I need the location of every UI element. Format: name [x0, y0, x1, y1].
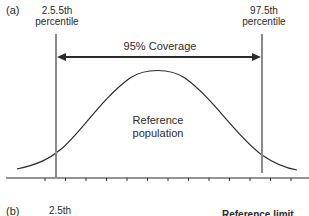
- curve-label-line1: Reference: [118, 114, 198, 127]
- lower-percentile-label: 2.5.5th percentile: [30, 5, 84, 27]
- arrowhead-left: [57, 53, 66, 61]
- upper-percentile-label: 97.5th percentile: [237, 5, 291, 27]
- upper-percentile-line2: percentile: [237, 16, 291, 27]
- reference-interval-diagram: [0, 0, 309, 216]
- arrowhead-right: [252, 53, 261, 61]
- panel-b-label: (b): [6, 206, 19, 216]
- panel-b-lower-label: 2.5th: [40, 205, 80, 216]
- coverage-label: 95% Coverage: [100, 41, 220, 52]
- curve-label-line2: population: [118, 127, 198, 140]
- lower-percentile-line1: 2.5.5th: [30, 5, 84, 16]
- reference-population-label: Reference population: [118, 114, 198, 140]
- panel-b-reference-limit-label: Reference limit: [222, 209, 294, 216]
- panel-a-label: (a): [6, 5, 19, 16]
- lower-percentile-line2: percentile: [30, 16, 84, 27]
- upper-percentile-line1: 97.5th: [237, 5, 291, 16]
